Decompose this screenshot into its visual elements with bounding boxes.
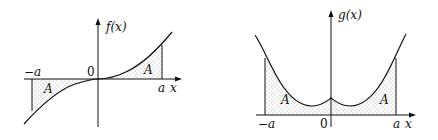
right-graph-even-function: g(x) 0 −a a x A A <box>255 8 416 131</box>
right-area-label-left: A <box>280 93 290 107</box>
left-neg-bound-label: −a <box>24 65 41 79</box>
left-pos-bound-label: a <box>158 81 165 95</box>
left-y-axis-arrow-icon <box>96 18 101 25</box>
right-y-axis-arrow-icon <box>329 10 334 17</box>
left-graph-odd-function: f(x) 0 −a a x A A <box>24 18 182 127</box>
right-neg-bound-label: −a <box>258 117 275 131</box>
left-origin-label: 0 <box>87 65 95 79</box>
left-x-axis-label: x <box>170 81 177 95</box>
right-origin-label: 0 <box>320 117 328 131</box>
left-area-label-negative: A <box>43 82 53 96</box>
right-pos-bound-label: a <box>393 117 400 131</box>
right-y-axis-label: g(x) <box>338 8 362 22</box>
right-area-label-right: A <box>379 93 389 107</box>
figure-canvas: f(x) 0 −a a x A A g(x) 0 −a a x A A <box>0 0 438 140</box>
left-y-axis-label: f(x) <box>105 20 127 34</box>
right-x-axis-label: x <box>405 117 412 131</box>
left-area-label-positive: A <box>143 63 153 77</box>
